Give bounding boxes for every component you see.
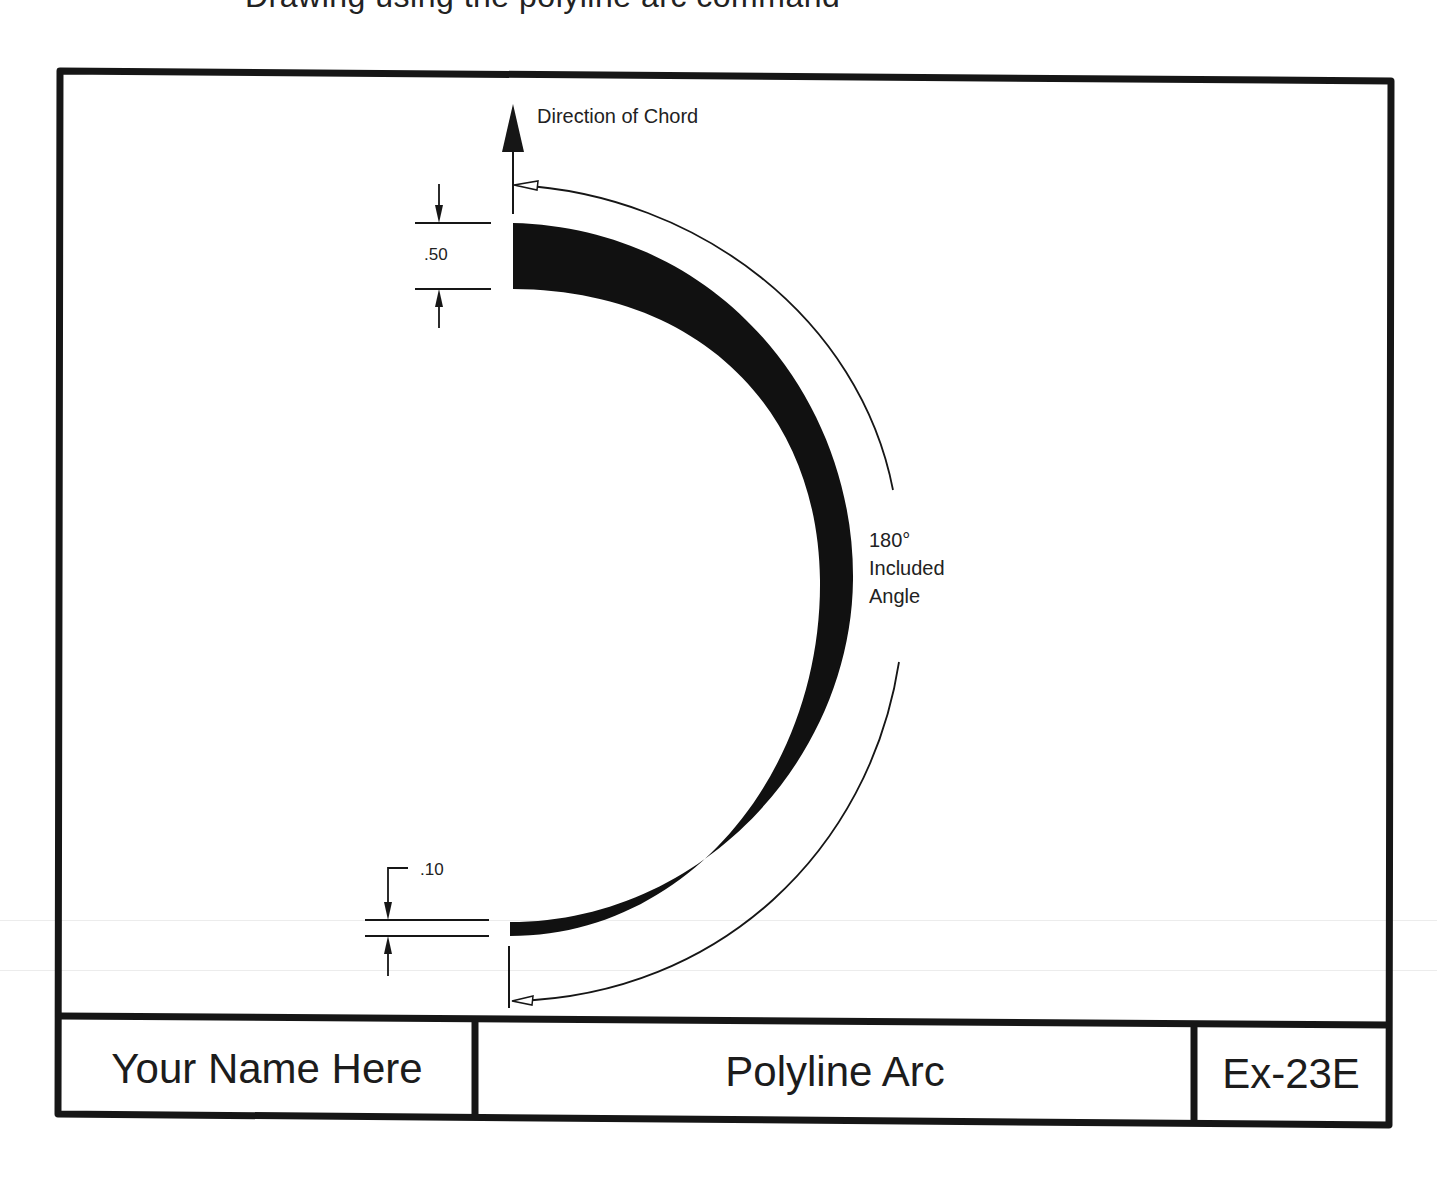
arrowhead-icon <box>514 181 538 190</box>
included-angle-label: 180° Included Angle <box>869 526 945 610</box>
angle-text-line1: Included <box>869 554 945 582</box>
title-block-title: Polyline Arc <box>480 1026 1190 1118</box>
polyline-arc-shape <box>510 223 853 936</box>
dimension-end-width <box>365 868 489 976</box>
angle-value: 180° <box>869 526 945 554</box>
drawing-canvas <box>0 0 1437 1179</box>
angle-text-line2: Angle <box>869 582 945 610</box>
end-width-label: .10 <box>420 861 444 878</box>
cropped-header-text: Drawing using the polyline arc command <box>245 0 840 15</box>
title-block-name: Your Name Here <box>64 1024 470 1114</box>
drawing-border <box>58 71 1391 1125</box>
start-width-label: .50 <box>424 246 448 263</box>
angle-dimension-arc-lower <box>516 662 899 1001</box>
direction-arrow-icon <box>502 104 524 214</box>
arrowhead-icon <box>512 996 533 1005</box>
direction-of-chord-label: Direction of Chord <box>537 106 698 126</box>
title-block-number: Ex-23E <box>1198 1030 1384 1118</box>
